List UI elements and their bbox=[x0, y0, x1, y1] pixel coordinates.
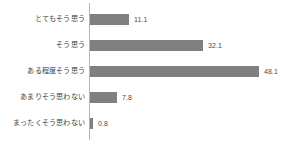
value-label: 11.1 bbox=[134, 14, 148, 25]
chart-row: とてもそう思う 11.1 bbox=[0, 13, 302, 25]
category-label: そう思う bbox=[0, 39, 85, 51]
category-label: とてもそう思う bbox=[0, 13, 85, 25]
value-label: 48.1 bbox=[264, 66, 278, 77]
value-label: 0.8 bbox=[98, 118, 108, 129]
bar-chart: とてもそう思う 11.1 そう思う 32.1 ある程度そう思う 48.1 あまり… bbox=[0, 0, 302, 145]
category-label: まったくそう思わない bbox=[0, 117, 85, 129]
category-label: ある程度そう思う bbox=[0, 65, 85, 77]
bar bbox=[90, 66, 259, 77]
chart-row: そう思う 32.1 bbox=[0, 39, 302, 51]
chart-row: あまりそう思わない 7.8 bbox=[0, 91, 302, 103]
chart-row: ある程度そう思う 48.1 bbox=[0, 65, 302, 77]
value-label: 7.8 bbox=[122, 92, 132, 103]
chart-row: まったくそう思わない 0.8 bbox=[0, 117, 302, 129]
value-label: 32.1 bbox=[208, 40, 222, 51]
bar bbox=[90, 118, 93, 129]
category-label: あまりそう思わない bbox=[0, 91, 85, 103]
bar bbox=[90, 14, 129, 25]
bar bbox=[90, 40, 203, 51]
bar bbox=[90, 92, 117, 103]
